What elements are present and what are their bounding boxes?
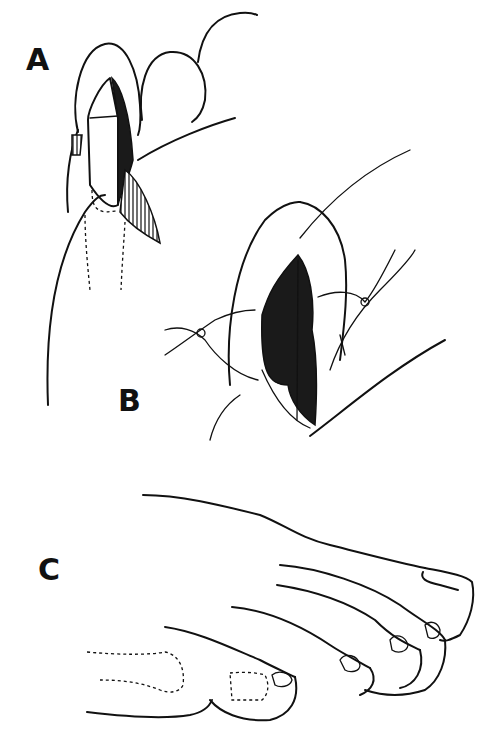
panel-b-drawing (165, 150, 445, 440)
surgical-illustration (0, 0, 491, 742)
panel-a-drawing (47, 13, 257, 405)
panel-c-drawing (87, 495, 473, 720)
